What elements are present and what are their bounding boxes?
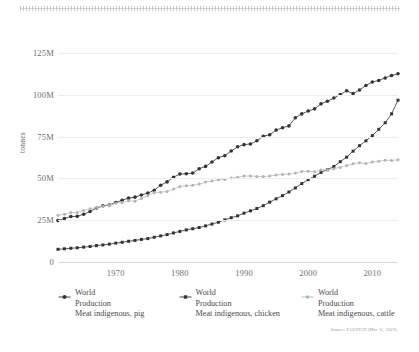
data-point [185,172,189,176]
y-tick-label: 25M [2,215,54,225]
gridline [58,53,398,54]
data-point [82,212,86,216]
data-point [159,183,163,187]
data-point [236,145,240,149]
legend-label-line: World [196,288,280,299]
data-point [108,243,111,246]
data-point [313,170,316,173]
data-point [140,193,144,197]
series-line [58,100,398,249]
gridline [58,137,398,138]
data-point [153,236,156,239]
data-point [390,112,393,115]
legend-label-line: Meat indigenous, cattle [318,309,395,320]
data-point [197,167,201,171]
data-point [178,185,181,188]
data-point [339,166,342,169]
data-point [172,231,175,234]
data-point [204,181,207,184]
data-point [82,209,85,212]
data-point [101,243,104,246]
data-point [146,237,149,240]
data-point [268,201,271,204]
data-point [287,190,290,193]
y-tick-label: 75M [2,132,54,142]
gridline [58,95,398,96]
data-point [275,197,278,200]
data-point [76,246,79,249]
legend-label: WorldProductionMeat indigenous, cattle [318,288,395,320]
data-point [364,162,367,165]
y-tick-label: 0 [2,257,54,267]
y-axis-ticks: 025M50M75M100M125M [0,43,54,262]
data-point [178,230,181,233]
data-point [89,245,92,248]
data-point [101,205,104,208]
data-point [76,211,79,214]
data-point [300,170,303,173]
data-point [313,175,316,178]
data-point [384,121,387,124]
data-point [397,158,400,161]
data-point [140,197,143,200]
data-point [185,184,188,187]
x-axis-ticks: 19701980199020002010 [58,268,398,282]
x-axis-line [58,262,398,263]
series-cattle [57,158,400,217]
data-point [133,195,137,199]
legend-label: WorldProductionMeat indigenous, chicken [196,288,280,320]
legend-item-chicken[interactable]: WorldProductionMeat indigenous, chicken [179,288,293,320]
data-point [146,194,149,197]
data-point [166,190,169,193]
data-point [287,173,290,176]
y-tick-label: 50M [2,173,54,183]
x-tick-label: 1970 [107,268,125,278]
data-point [159,234,162,237]
data-point [229,149,233,153]
legend-marker-icon [58,289,71,301]
data-point [165,180,169,184]
data-point [243,212,246,215]
data-point [294,186,297,189]
data-point [63,247,66,250]
data-point [69,215,73,219]
data-point [63,213,66,216]
y-tick-label: 100M [2,90,54,100]
data-point [95,206,98,209]
data-point [294,172,297,175]
legend-label-line: Meat indigenous, chicken [196,309,280,320]
data-point [384,159,387,162]
series-chicken [57,99,400,251]
data-point [133,239,136,242]
data-point [332,167,335,170]
data-point [204,224,207,227]
legend-label-line: World [318,288,395,299]
data-point [114,202,117,205]
y-tick-label: 125M [2,48,54,58]
data-point [352,150,355,153]
data-point [210,223,213,226]
legend-item-pig[interactable]: WorldProductionMeat indigenous, pig [58,288,171,320]
data-point [377,79,381,83]
data-point [345,164,348,167]
data-point [108,204,111,207]
legend-label: WorldProductionMeat indigenous, pig [75,288,144,320]
chart-legend: WorldProductionMeat indigenous, pigWorld… [58,288,408,320]
data-point [262,204,265,207]
data-point [210,160,214,164]
legend-label-line: Production [75,299,144,310]
data-point [287,124,291,128]
data-point [326,168,329,171]
x-tick-label: 2000 [299,268,317,278]
data-point [127,199,130,202]
legend-item-cattle[interactable]: WorldProductionMeat indigenous, cattle [301,288,400,320]
data-point [159,191,162,194]
data-point [390,74,394,78]
data-point [82,246,85,249]
data-point [396,72,400,76]
data-point [243,175,246,178]
data-point [191,227,194,230]
data-point [358,88,362,92]
data-point [383,76,387,80]
chart-page: tonnes 025M50M75M100M125M 19701980199020… [0,0,419,352]
